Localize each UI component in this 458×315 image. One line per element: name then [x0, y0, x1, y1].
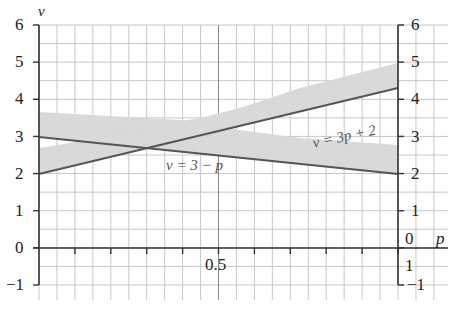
chart-canvas	[0, 0, 458, 315]
left-tick-1: 1	[15, 202, 24, 219]
right-tick-5: 5	[411, 53, 420, 70]
x-axis-label: p	[436, 230, 445, 247]
left-tick-minus-1: −1	[6, 276, 24, 293]
right-tick-minus-1: −1	[407, 276, 425, 293]
left-tick-0: 0	[15, 239, 24, 256]
left-tick-4: 4	[15, 90, 24, 107]
annotation-3-minus-p: v = 3 − p	[166, 157, 223, 174]
y-axis-label: v	[38, 4, 45, 19]
left-tick-2: 2	[15, 165, 24, 182]
right-tick-6: 6	[411, 16, 420, 33]
right-tick-3: 3	[411, 128, 420, 145]
left-tick-6: 6	[15, 16, 24, 33]
right-tick-extra-1: 1	[405, 257, 414, 274]
right-tick-0: 0	[405, 230, 414, 247]
left-tick-5: 5	[15, 53, 24, 70]
x-tick-0-5: 0.5	[205, 256, 226, 273]
right-tick-4: 4	[411, 90, 420, 107]
right-tick-2: 2	[411, 165, 420, 182]
right-tick-1: 1	[411, 202, 420, 219]
left-tick-3: 3	[15, 128, 24, 145]
